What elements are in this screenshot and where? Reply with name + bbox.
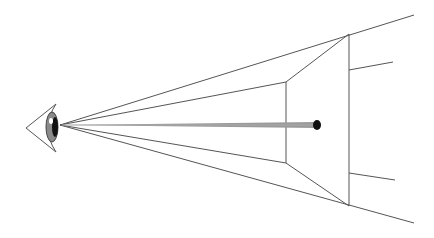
- side-line-bottom: [349, 173, 395, 180]
- side-line-top: [349, 62, 393, 70]
- sight-rod: [62, 122, 316, 128]
- diagram-canvas: [0, 0, 434, 238]
- target-point: [313, 120, 321, 130]
- view-rays: [60, 15, 414, 223]
- frustum: [286, 34, 395, 206]
- eye-icon: [26, 104, 58, 152]
